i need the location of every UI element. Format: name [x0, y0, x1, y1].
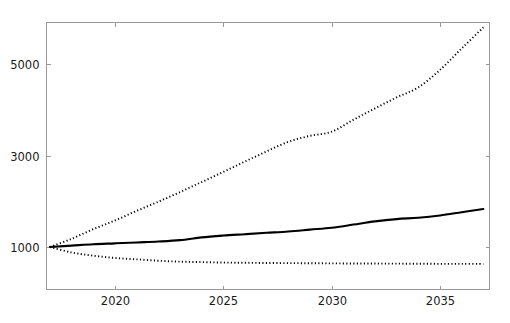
x-tick-label-2020: 2020 [101, 294, 130, 308]
x-tick-label-2035: 2035 [426, 294, 455, 308]
x-tick-label-2025: 2025 [209, 294, 238, 308]
y-tick-label-5000: 5000 [10, 58, 39, 72]
y-tick-label-3000: 3000 [10, 150, 39, 164]
y-tick-label-1000: 1000 [10, 241, 39, 255]
chart-container: 100030005000 2020202520302035 [0, 0, 510, 323]
chart-background [0, 0, 510, 323]
x-tick-label-2030: 2030 [318, 294, 347, 308]
line-chart: 100030005000 2020202520302035 [0, 0, 510, 323]
